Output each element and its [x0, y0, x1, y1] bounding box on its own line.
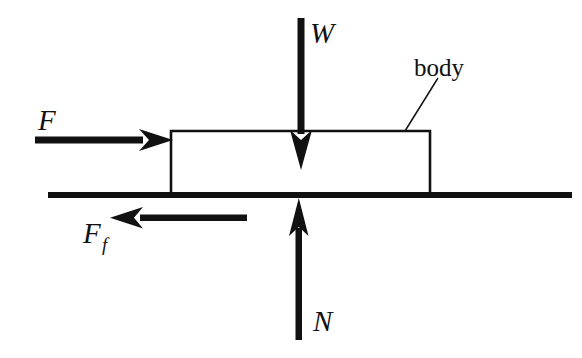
friction-force-label-subscript: f	[102, 234, 110, 255]
friction-force-label: F f	[82, 217, 110, 255]
free-body-diagram-svg: W F F f N body	[0, 0, 582, 358]
normal-force-arrow-shaft	[296, 228, 303, 340]
friction-force-arrow-shaft	[140, 215, 247, 222]
weight-label: W	[310, 17, 337, 49]
friction-force-label-base: F	[82, 217, 101, 249]
ground-surface-line	[48, 192, 572, 198]
normal-force-arrow	[289, 198, 309, 340]
body-leader-line	[405, 78, 438, 131]
friction-force-arrow-head	[110, 207, 143, 229]
weight-arrow-head	[290, 130, 312, 170]
body-label: body	[414, 54, 465, 81]
applied-force-arrow-shaft	[35, 137, 143, 144]
applied-force-label: F	[37, 104, 56, 136]
free-body-diagram-canvas: W F F f N body	[0, 0, 582, 358]
weight-arrow	[290, 18, 312, 170]
friction-force-arrow	[110, 207, 247, 229]
applied-force-arrow-head	[139, 129, 173, 151]
weight-arrow-shaft	[298, 18, 305, 134]
normal-force-label: N	[312, 305, 334, 337]
